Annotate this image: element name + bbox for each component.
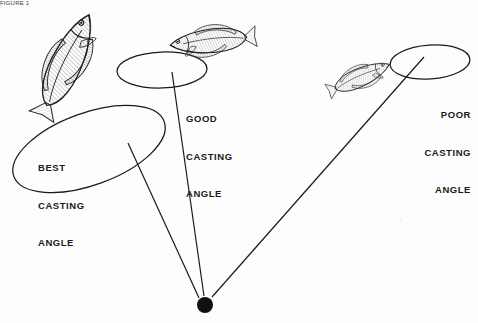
- label-best-casting-angle: BEST CASTING ANGLE: [38, 137, 85, 275]
- cast-line-poor: [212, 57, 424, 297]
- zone-ellipse-poor: [389, 42, 471, 81]
- label-poor-line1: POOR: [409, 109, 471, 122]
- fish-middle: [169, 20, 258, 60]
- label-best-line2: CASTING: [38, 200, 85, 213]
- label-best-line3: ANGLE: [38, 237, 85, 250]
- casting-angle-figure: FIGURE 1: [0, 0, 478, 323]
- label-poor-casting-angle: POOR CASTING ANGLE: [409, 84, 471, 222]
- label-good-line1: GOOD: [186, 113, 233, 126]
- label-poor-line3: ANGLE: [409, 184, 471, 197]
- label-good-casting-angle: GOOD CASTING ANGLE: [186, 88, 233, 226]
- label-best-line1: BEST: [38, 162, 85, 175]
- label-good-line2: CASTING: [186, 151, 233, 164]
- fish-right: [323, 53, 394, 103]
- label-poor-line2: CASTING: [409, 147, 471, 160]
- label-good-line3: ANGLE: [186, 188, 233, 201]
- fish-left: [23, 6, 108, 125]
- angler-position-dot: [197, 297, 213, 313]
